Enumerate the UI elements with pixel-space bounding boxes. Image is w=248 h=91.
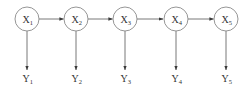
hidden-node-x4: X4 (164, 7, 188, 31)
hidden-node-x3: X3 (113, 7, 137, 31)
hmm-diagram: X1 X2 X3 X4 X5 Y1 Y2 Y3 Y4 Y5 (0, 0, 248, 91)
hidden-node-x5: X5 (214, 7, 238, 31)
emission-edges (27, 31, 226, 70)
observed-node-y5: Y5 (222, 73, 232, 85)
hidden-node-x1: X1 (15, 7, 39, 31)
observed-node-y4: Y4 (172, 73, 183, 85)
observed-node-y1: Y1 (23, 73, 33, 85)
observed-node-y3: Y3 (121, 73, 131, 85)
hidden-node-x2: X2 (64, 7, 88, 31)
observed-node-y2: Y2 (72, 73, 82, 85)
